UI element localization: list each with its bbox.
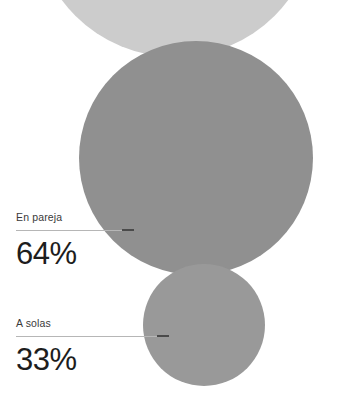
callout-en-pareja: En pareja 64% bbox=[16, 210, 133, 272]
leader-tip-icon-en-pareja bbox=[122, 229, 134, 231]
callout-value-en-pareja: 64% bbox=[16, 236, 133, 272]
callout-label-en-pareja: En pareja bbox=[16, 210, 133, 224]
callout-a-solas: A solas 33% bbox=[16, 316, 168, 378]
bubble-chart-canvas: En pareja 64% A solas 33% bbox=[0, 0, 344, 399]
callout-value-a-solas: 33% bbox=[16, 342, 168, 378]
leader-tip-icon-a-solas bbox=[157, 335, 169, 337]
leader-line-a-solas bbox=[16, 336, 168, 337]
leader-line-en-pareja bbox=[16, 230, 133, 231]
callout-label-a-solas: A solas bbox=[16, 316, 168, 330]
